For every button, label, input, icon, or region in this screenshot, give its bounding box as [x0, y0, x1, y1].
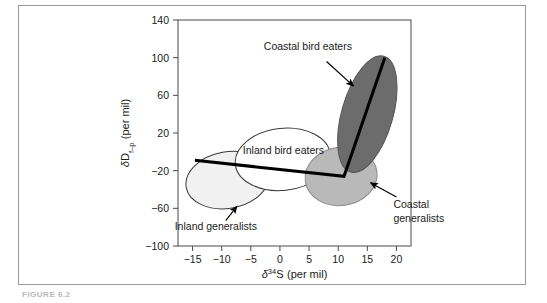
y-tick-label: −100 [145, 240, 169, 252]
x-axis-ticks: −15−10−505101520 [184, 246, 403, 265]
x-axis-title: δ34S(per mil) [262, 267, 328, 281]
y-axis-title: δDf–p(per mil) [119, 99, 136, 167]
annotation-label-inland-generalists: Inland generalists [175, 220, 257, 232]
x-tick-label: −5 [245, 253, 257, 265]
y-tick-label: −60 [151, 202, 169, 214]
x-tick-label: 10 [332, 253, 344, 265]
figure-caption: FIGURE 6.2 [22, 290, 71, 299]
x-tick-label: 15 [361, 253, 373, 265]
x-tick-label: 5 [306, 253, 312, 265]
y-tick-label: 100 [151, 52, 169, 64]
x-tick-label: 20 [391, 253, 403, 265]
annotation-label-coastal-generalists-line1: Coastal [393, 198, 429, 210]
y-tick-label: 60 [157, 89, 169, 101]
y-tick-label: 140 [151, 14, 169, 26]
figure-root: −15−10−505101520 −100−60−202060100140 Co… [0, 0, 547, 303]
x-tick-label: −15 [184, 253, 202, 265]
annotation-label-coastal-generalists-line2: generalists [393, 212, 444, 224]
x-tick-label: −10 [213, 253, 231, 265]
y-axis-ticks: −100−60−202060100140 [145, 14, 178, 252]
y-tick-label: 20 [157, 127, 169, 139]
annotation-label-inland-bird-eaters: Inland bird eaters [243, 144, 324, 156]
x-tick-label: 0 [277, 253, 283, 265]
scatter-plot: −15−10−505101520 −100−60−202060100140 Co… [0, 0, 547, 303]
y-tick-label: −20 [151, 165, 169, 177]
annotation-label-coastal-bird-eaters: Coastal bird eaters [264, 40, 352, 52]
